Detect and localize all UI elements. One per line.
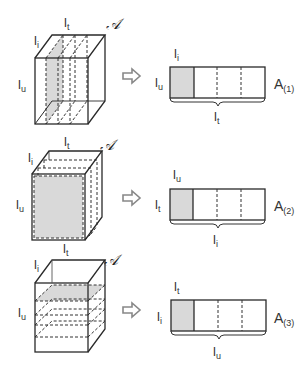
- matrix3-label-bottom: lu: [213, 345, 221, 361]
- cube3-tensor-symbol: 𝒜: [104, 253, 118, 268]
- matrix2-label-left: lt: [155, 198, 160, 214]
- matrix1-label-top: li: [174, 47, 179, 63]
- matrix3-label-left: li: [157, 310, 162, 326]
- arrow-icon-2: [123, 191, 140, 205]
- cube-1: [35, 35, 105, 124]
- matrix1-label-bottom: lt: [214, 110, 219, 126]
- cube3-label-left: lu: [18, 306, 26, 322]
- arrow-icon-1: [123, 69, 140, 83]
- matrix3-name: A(3): [274, 311, 294, 328]
- cube2-label-depth: li: [28, 151, 33, 167]
- matrix3-label-top: lt: [174, 280, 179, 296]
- shaded-slice-2: [34, 176, 83, 238]
- matrix2-label-top: lu: [173, 168, 181, 184]
- matrix-2: [170, 189, 265, 228]
- tensor-unfolding-diagram: .e { stroke:#2a2a2a; stroke-width:1.3; f…: [0, 0, 308, 376]
- matrix-1: [170, 67, 265, 106]
- brace-3: [171, 331, 266, 339]
- cube3-label-depth: li: [34, 258, 39, 274]
- matrix1-name: A(1): [274, 77, 294, 94]
- matrix2-label-bottom: li: [213, 233, 218, 249]
- cube1-tensor-symbol: 𝒜: [106, 17, 120, 32]
- matrix2-name: A(2): [274, 199, 294, 216]
- cube1-label-depth: li: [34, 34, 39, 50]
- cube2-label-top: lt: [64, 135, 69, 151]
- arrow-icon-3: [123, 303, 140, 317]
- cube-3: [35, 260, 105, 352]
- cube-2: [32, 151, 102, 240]
- brace-2: [170, 220, 265, 228]
- cube2-label-bottom: lt: [63, 242, 68, 258]
- cube2-tensor-symbol: 𝒜: [100, 138, 114, 153]
- cube1-label-top: lt: [64, 16, 69, 32]
- cube2-label-left: lu: [16, 198, 24, 214]
- shaded-slice-1: [46, 35, 63, 124]
- matrix-3: [171, 300, 266, 339]
- brace-1: [170, 98, 265, 106]
- cube1-label-left: lu: [18, 78, 26, 94]
- matrix1-label-left: lu: [155, 76, 163, 92]
